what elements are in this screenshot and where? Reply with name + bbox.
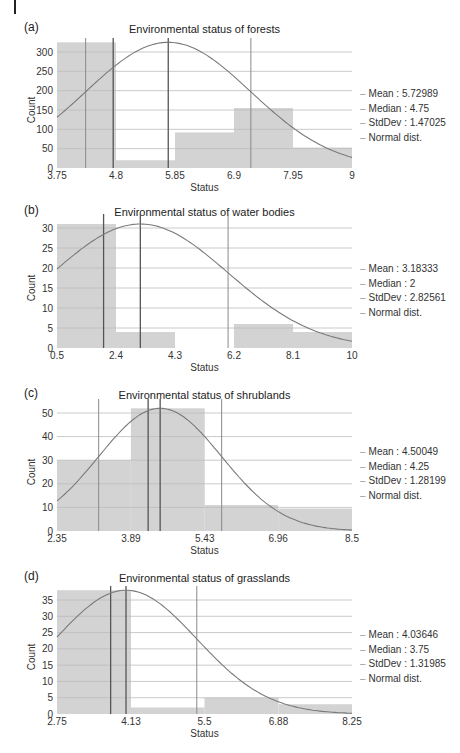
- x-tick-label: 6.88: [269, 716, 289, 727]
- y-tick-label: 10: [42, 676, 54, 687]
- x-axis-label: Status: [190, 728, 218, 739]
- legend-item-stddev: –StdDev : 1.31985: [360, 657, 446, 672]
- legend-item-mean: –Mean : 4.03646: [360, 628, 446, 643]
- legend-dash-icon: –: [360, 644, 366, 655]
- y-tick-label: 25: [42, 627, 54, 638]
- x-tick-label: 8.25: [342, 716, 362, 727]
- legend-item-normal-dist: –Normal dist.: [360, 672, 446, 687]
- histogram-bar: [57, 590, 131, 714]
- y-tick-label: 15: [42, 660, 54, 671]
- legend-item-median: –Median : 3.75: [360, 643, 446, 658]
- x-tick-label: 5.5: [198, 716, 212, 727]
- x-tick-label: 2.75: [47, 716, 67, 727]
- y-tick-label: 5: [47, 692, 53, 703]
- y-tick-label: 20: [42, 643, 54, 654]
- legend-dash-icon: –: [360, 673, 366, 684]
- legend-dash-icon: –: [360, 658, 366, 669]
- y-axis-label: Count: [26, 643, 37, 670]
- histogram-bar: [205, 698, 279, 714]
- legend-dash-icon: –: [360, 629, 366, 640]
- histogram-bar: [131, 707, 204, 714]
- chart-legend: –Mean : 4.03646 –Median : 3.75 –StdDev :…: [360, 628, 446, 686]
- panel-grasslands: (d) Environmental status of grasslands 0…: [0, 0, 460, 753]
- y-tick-label: 30: [42, 611, 54, 622]
- x-tick-label: 4.13: [121, 716, 141, 727]
- y-tick-label: 35: [42, 595, 54, 606]
